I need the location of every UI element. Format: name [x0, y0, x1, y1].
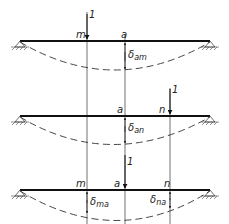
load-label: 1 — [172, 84, 178, 95]
deflection-label-am: δam — [128, 49, 147, 62]
point-label-a: a — [117, 104, 123, 115]
beam-2: 1 a n δan — [11, 84, 219, 145]
deflection-label-na: δna — [150, 194, 166, 207]
point-label-m: m — [76, 29, 86, 40]
deflected-shape — [20, 191, 210, 221]
deflected-shape — [20, 42, 210, 70]
point-label-a: a — [121, 29, 127, 40]
point-label-a: a — [114, 178, 120, 189]
load-label: 1 — [127, 156, 133, 167]
beam-1: 1 m a δam — [11, 9, 219, 70]
deflection-label-an: δan — [128, 122, 144, 135]
beam-3: 1 m a n δma δna — [11, 155, 219, 221]
point-label-m: m — [76, 178, 86, 189]
deflection-label-ma: δma — [90, 196, 109, 209]
load-label: 1 — [89, 9, 95, 20]
deflected-shape — [20, 117, 210, 145]
point-label-n: n — [159, 104, 165, 115]
point-label-n: n — [164, 178, 170, 189]
reciprocal-deflection-diagram: 1 m a δam 1 a n — [0, 0, 229, 224]
